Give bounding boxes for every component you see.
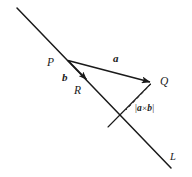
label-cross-product-magnitude: |a×b|	[135, 104, 154, 114]
label-point-r: R	[74, 85, 81, 97]
label-point-q: Q	[160, 76, 168, 88]
line-l-stroke	[17, 8, 171, 168]
norm-bar-close: |	[152, 103, 154, 113]
label-line-l: L	[170, 152, 176, 163]
label-point-p: P	[47, 57, 54, 69]
vector-geometry-figure: P Q R a b L |a×b|	[0, 0, 192, 177]
label-vector-a: a	[113, 53, 119, 64]
vector-a-arrow	[68, 61, 150, 83]
figure-canvas	[0, 0, 192, 177]
label-vector-b: b	[62, 72, 68, 83]
